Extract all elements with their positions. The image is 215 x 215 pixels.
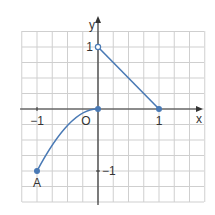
y-axis-label: y — [89, 18, 95, 32]
x-tick-label: −1 — [30, 114, 44, 128]
filled-point — [35, 169, 40, 174]
x-tick-label: 1 — [156, 114, 163, 128]
point-label-a: A — [33, 176, 41, 190]
filled-point — [96, 107, 101, 112]
open-point — [95, 44, 100, 49]
y-axis-arrow-icon — [95, 16, 101, 23]
x-axis-label: x — [196, 112, 202, 126]
function-graph: xyO−111−1A — [0, 0, 215, 215]
y-tick-label: −1 — [102, 164, 116, 178]
origin-label: O — [81, 114, 90, 128]
labels: xyO−111−1A — [30, 18, 202, 190]
y-tick-label: 1 — [86, 40, 93, 54]
filled-point — [157, 107, 162, 112]
